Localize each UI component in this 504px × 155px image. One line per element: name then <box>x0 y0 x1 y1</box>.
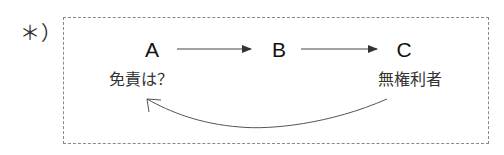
node-c: C <box>396 38 411 62</box>
node-b: B <box>272 38 286 62</box>
curved-arrow-c-to-a <box>147 99 387 128</box>
label-a-exemption: 免責は？ <box>109 66 173 90</box>
node-a: A <box>145 38 159 62</box>
label-c-non-owner: 無権利者 <box>378 66 442 90</box>
